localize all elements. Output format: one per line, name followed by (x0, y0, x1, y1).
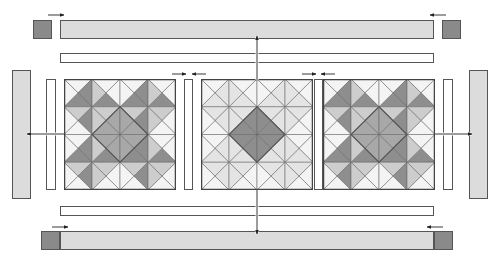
corner-bottom-right (434, 231, 453, 250)
sashing-top (60, 53, 434, 63)
border-left (12, 70, 31, 199)
left-block (64, 79, 176, 190)
corner-top-left (33, 20, 52, 39)
sashing-bottom (60, 206, 434, 216)
corner-top-right (442, 20, 461, 39)
border-bottom (60, 231, 434, 250)
corner-bottom-left (41, 231, 60, 250)
sashing-left (46, 79, 56, 190)
border-top (60, 20, 434, 39)
sashing-mid-1 (184, 79, 193, 190)
right-block (323, 79, 435, 190)
sashing-mid-2 (314, 79, 323, 190)
center-block (201, 79, 313, 190)
border-right (469, 70, 488, 199)
sashing-right (443, 79, 453, 190)
quilt-assembly-diagram (0, 0, 496, 261)
